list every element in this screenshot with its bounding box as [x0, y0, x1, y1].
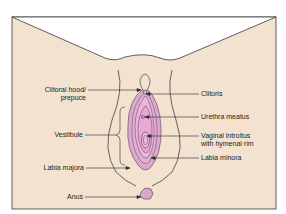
label-clitoris: Clitoris [201, 90, 222, 98]
label-vaginal-introitus: Vaginal introitus with hymenal rim [201, 132, 254, 148]
label-clitoral-hood: Clitoral hood/ prepuce [30, 86, 86, 102]
clitoris [143, 90, 147, 94]
label-vestibule: Vestibule [30, 131, 83, 139]
label-urethra: Urethra meatus [201, 113, 249, 121]
label-labia-minora: Labia minora [201, 154, 241, 162]
label-line: with hymenal rim [201, 140, 254, 148]
label-anus: Anus [40, 193, 83, 201]
label-line: prepuce [30, 94, 86, 102]
anatomy-diagram [0, 0, 286, 214]
label-labia-majora: Labia majora [20, 164, 84, 172]
label-line: Clitoral hood/ [30, 86, 86, 94]
label-line: Vaginal introitus [201, 132, 254, 140]
vaginal-introitus [142, 132, 150, 148]
